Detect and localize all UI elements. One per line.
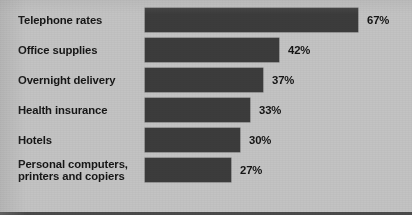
category-label: Office supplies: [18, 44, 142, 57]
bar: [145, 158, 231, 182]
category-label: Personal computers, printers and copiers: [18, 158, 142, 183]
bar: [145, 128, 240, 152]
bar: [145, 8, 358, 32]
bar-value-label: 27%: [240, 164, 262, 176]
chart-row: Office supplies42%: [0, 38, 412, 62]
bar: [145, 38, 279, 62]
bar-value-label: 30%: [249, 134, 271, 146]
bar-value-label: 42%: [288, 44, 310, 56]
bottom-rule: [0, 212, 412, 215]
category-label: Overnight delivery: [18, 74, 142, 87]
bar-chart: Telephone rates67%Office supplies42%Over…: [0, 0, 412, 215]
chart-row: Telephone rates67%: [0, 8, 412, 32]
category-label: Hotels: [18, 134, 142, 147]
bar-value-label: 67%: [367, 14, 389, 26]
bar-value-label: 37%: [272, 74, 294, 86]
chart-row: Hotels30%: [0, 128, 412, 152]
chart-row: Overnight delivery37%: [0, 68, 412, 92]
bar: [145, 98, 250, 122]
category-label: Telephone rates: [18, 14, 142, 27]
chart-row: Personal computers, printers and copiers…: [0, 158, 412, 182]
bar-value-label: 33%: [259, 104, 281, 116]
category-label: Health insurance: [18, 104, 142, 117]
chart-plot-area: Telephone rates67%Office supplies42%Over…: [0, 0, 412, 215]
chart-row: Health insurance33%: [0, 98, 412, 122]
bar: [145, 68, 263, 92]
